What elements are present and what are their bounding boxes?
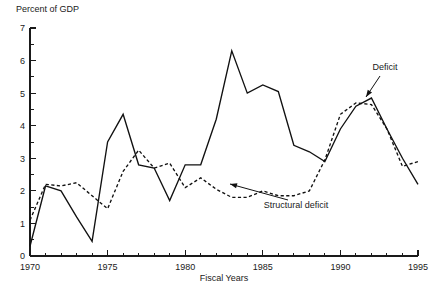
x-tick-label-1975: 1975 <box>98 262 118 272</box>
y-tick-label-5: 5 <box>20 89 25 99</box>
x-tick-label-1980: 1980 <box>175 262 195 272</box>
y-tick-label-3: 3 <box>20 154 25 164</box>
y-tick-label-4: 4 <box>20 121 25 131</box>
x-axis-major-ticks <box>30 250 418 256</box>
x-axis-title: Fiscal Years <box>200 273 249 283</box>
series-structural-deficit-line <box>30 103 418 220</box>
y-axis-title: Percent of GDP <box>16 4 79 14</box>
x-tick-label-1990: 1990 <box>330 262 350 272</box>
y-tick-label-6: 6 <box>20 56 25 66</box>
x-tick-label-1985: 1985 <box>253 262 273 272</box>
x-axis-tick-labels: 197019751980198519901995 <box>20 262 428 272</box>
x-tick-label-1995: 1995 <box>408 262 428 272</box>
deficit-chart: Percent of GDP 01234567 1970197519801985… <box>0 0 434 288</box>
y-axis-tick-labels: 01234567 <box>20 23 25 261</box>
annotation-arrowhead-deficit <box>366 90 372 97</box>
y-tick-label-1: 1 <box>20 219 25 229</box>
chart-annotations: DeficitStructural deficit <box>230 62 398 210</box>
y-tick-label-7: 7 <box>20 23 25 33</box>
y-tick-label-0: 0 <box>20 251 25 261</box>
y-tick-label-2: 2 <box>20 186 25 196</box>
chart-page: Percent of GDP 01234567 1970197519801985… <box>0 0 434 288</box>
series-deficit-line <box>30 51 418 246</box>
annotation-label-structural-deficit: Structural deficit <box>264 200 329 210</box>
x-tick-label-1970: 1970 <box>20 262 40 272</box>
y-axis-minor-ticks <box>30 44 34 239</box>
annotation-arrowhead-structural-deficit <box>230 183 237 188</box>
annotation-label-deficit: Deficit <box>372 62 398 72</box>
